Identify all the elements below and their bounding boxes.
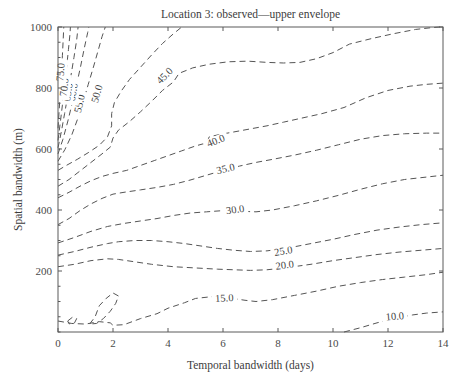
- contour-label: 10.0: [385, 310, 404, 323]
- axes-layer: [58, 27, 443, 332]
- contour-line: [58, 133, 443, 225]
- ticks-layer: 024681012142004006008001000: [30, 21, 449, 349]
- contour-line-closed: [90, 293, 119, 324]
- contour-label-group: 45.0: [152, 63, 179, 90]
- y-tick-label: 200: [36, 265, 53, 277]
- contour-label-group: 25.0: [270, 244, 297, 260]
- x-tick-label: 2: [110, 337, 116, 349]
- contour-line: [58, 27, 440, 186]
- x-tick-label: 8: [275, 337, 281, 349]
- contour-label-group: 35.0: [212, 160, 239, 177]
- plot-frame: [58, 27, 443, 332]
- contour-label: 20.0: [275, 258, 295, 271]
- x-tick-label: 10: [328, 337, 340, 349]
- page-title: Location 3: observed—upper envelope: [161, 8, 340, 21]
- contour-label: 50.0: [89, 83, 105, 104]
- contour-label-group: 20.0: [271, 258, 298, 273]
- y-tick-label: 800: [36, 82, 53, 94]
- x-tick-label: 14: [438, 337, 450, 349]
- contour-label-group: 40.0: [202, 131, 230, 152]
- contour-label: 35.0: [215, 161, 235, 176]
- contour-label-group: 10.0: [382, 310, 408, 324]
- x-tick-label: 6: [220, 337, 226, 349]
- x-tick-label: 12: [383, 337, 394, 349]
- x-tick-label: 4: [165, 337, 171, 349]
- contour-lines-layer: [58, 27, 443, 332]
- contour-label-group: 75.0: [54, 59, 68, 85]
- contour-labels-layer: 10.015.020.025.030.035.040.045.050.055.0…: [54, 59, 408, 324]
- contour-label-group: 30.0: [222, 202, 249, 218]
- y-tick-label: 600: [36, 143, 53, 155]
- x-tick-label: 0: [55, 337, 61, 349]
- contour-label: 15.0: [215, 292, 234, 304]
- y-tick-label: 1000: [30, 21, 53, 33]
- contour-label: 75.0: [54, 63, 66, 82]
- contour-label-group: 15.0: [211, 292, 237, 305]
- contour-line: [58, 83, 443, 198]
- contour-plot-svg: 10.015.020.025.030.035.040.045.050.055.0…: [0, 0, 466, 380]
- contour-label-group: 50.0: [88, 80, 107, 108]
- contour-line: [58, 223, 443, 255]
- x-axis-title: Temporal bandwidth (days): [187, 359, 314, 372]
- y-axis-title: Spatial bandwidth (m): [12, 128, 25, 231]
- contour-figure: 10.015.020.025.030.035.040.045.050.055.0…: [0, 0, 466, 380]
- y-tick-label: 400: [36, 204, 53, 216]
- contour-line: [58, 175, 443, 243]
